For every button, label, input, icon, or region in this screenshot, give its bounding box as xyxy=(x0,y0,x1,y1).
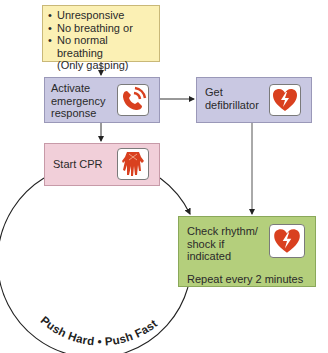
hands-icon xyxy=(117,148,149,180)
phone-icon xyxy=(117,84,149,116)
assessment-note: (Only gasping) xyxy=(47,59,155,72)
assessment-item: Unresponsive xyxy=(47,9,155,22)
assessment-list: Unresponsive No breathing or No normal b… xyxy=(47,9,155,59)
start-cpr-box: Start CPR xyxy=(44,143,160,186)
assessment-box: Unresponsive No breathing or No normal b… xyxy=(42,5,160,62)
check-rhythm-box: Check rhythm/ shock if indicated Repeat … xyxy=(178,216,316,287)
circle-caption: Push Hard • Push Fast xyxy=(38,314,159,348)
get-defibrillator-box: Get defibrillator xyxy=(196,77,312,123)
heart-shock-icon xyxy=(269,84,301,116)
svg-text:Push Hard • Push Fast: Push Hard • Push Fast xyxy=(38,314,159,348)
activate-emergency-box: Activate emergency response xyxy=(44,77,160,123)
assessment-item: No normal breathing xyxy=(47,34,155,59)
assessment-item: No breathing or xyxy=(47,22,155,35)
repeat-instruction: Repeat every 2 minutes xyxy=(187,273,307,286)
cpr-flowchart: Push Hard • Push Fast Unresponsive No br… xyxy=(0,0,328,353)
heart-shock-icon xyxy=(269,224,305,258)
